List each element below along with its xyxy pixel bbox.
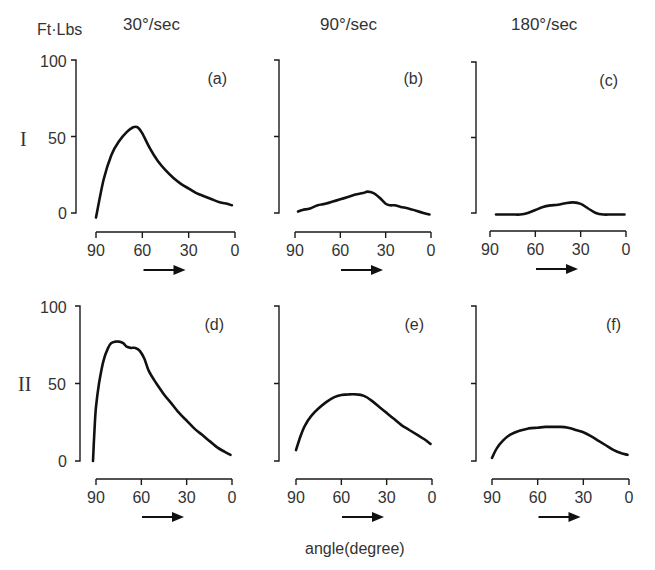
- y-tick-100-row1: 100: [40, 53, 67, 70]
- x-tick-label: 60: [132, 489, 150, 506]
- torque-curve-e: [296, 394, 431, 450]
- y-axis-e: [274, 306, 279, 461]
- y-axis-b: [274, 60, 279, 213]
- x-tick-label: 90: [87, 242, 105, 259]
- arrowhead-icon: [569, 512, 581, 522]
- arrowhead-icon: [174, 265, 186, 275]
- column-title-180: 180°/sec: [511, 15, 578, 34]
- x-axis-c: [490, 231, 626, 237]
- panel-label-e: (e): [404, 316, 424, 333]
- panel-d: 9060300(d): [75, 306, 237, 522]
- x-tick-label: 90: [87, 489, 105, 506]
- x-tick-label: 0: [622, 241, 631, 258]
- panel-c: 9060300(c): [471, 62, 631, 274]
- x-tick-label: 0: [427, 242, 436, 259]
- column-title-30: 30°/sec: [123, 15, 180, 34]
- x-tick-label: 90: [483, 489, 501, 506]
- panel-label-f: (f): [606, 316, 621, 333]
- x-axis-b: [295, 232, 431, 238]
- row-label-I: I: [20, 128, 27, 150]
- x-tick-label: 60: [133, 242, 151, 259]
- row-label-II: II: [18, 373, 31, 395]
- x-tick-label: 60: [332, 489, 350, 506]
- panel-b: 9060300(b): [274, 60, 436, 275]
- y-axis-d: [75, 306, 80, 461]
- panel-e: 9060300(e): [274, 306, 437, 522]
- y-tick-100-row2: 100: [40, 299, 67, 316]
- y-tick-0-row2: 0: [58, 453, 67, 470]
- torque-curve-a: [96, 127, 232, 218]
- x-tick-label: 60: [526, 241, 544, 258]
- x-axis-label: angle(degree): [305, 540, 405, 557]
- x-tick-label: 30: [377, 242, 395, 259]
- y-tick-0-row1: 0: [58, 205, 67, 222]
- x-tick-label: 60: [529, 489, 547, 506]
- x-tick-label: 30: [378, 489, 396, 506]
- panel-label-d: (d): [204, 316, 224, 333]
- x-tick-label: 90: [286, 242, 304, 259]
- panels-group: 9060300(a)9060300(b)9060300(c)9060300(d)…: [71, 60, 634, 522]
- x-tick-label: 30: [180, 242, 198, 259]
- x-tick-label: 90: [481, 241, 499, 258]
- y-axis-c: [471, 62, 476, 213]
- x-tick-label: 0: [428, 489, 437, 506]
- torque-curve-b: [298, 192, 430, 215]
- arrowhead-icon: [371, 265, 383, 275]
- x-tick-label: 30: [574, 489, 592, 506]
- x-axis-a: [96, 232, 235, 238]
- arrowhead-icon: [566, 264, 578, 274]
- figure-canvas: Ft·Lbs 30°/sec 90°/sec 180°/sec I II 100…: [0, 0, 655, 570]
- x-tick-label: 0: [228, 489, 237, 506]
- x-tick-label: 0: [625, 489, 634, 506]
- panel-label-a: (a): [207, 70, 227, 87]
- x-axis-f: [492, 479, 629, 485]
- x-tick-label: 30: [572, 241, 590, 258]
- x-tick-label: 30: [178, 489, 196, 506]
- y-tick-50-row2: 50: [48, 376, 66, 393]
- column-title-90: 90°/sec: [320, 15, 377, 34]
- panel-label-b: (b): [403, 70, 423, 87]
- x-tick-label: 90: [287, 489, 305, 506]
- arrowhead-icon: [172, 512, 184, 522]
- x-tick-label: 0: [231, 242, 240, 259]
- panel-a: 9060300(a): [71, 60, 240, 275]
- torque-curve-c: [496, 202, 625, 214]
- panel-label-c: (c): [599, 72, 618, 89]
- x-axis-e: [296, 479, 432, 485]
- arrowhead-icon: [372, 512, 384, 522]
- x-tick-label: 60: [331, 242, 349, 259]
- panel-f: 9060300(f): [471, 306, 634, 522]
- torque-curve-d: [93, 341, 231, 461]
- torque-curve-f: [492, 427, 628, 458]
- y-axis-a: [71, 60, 76, 213]
- y-unit-label: Ft·Lbs: [37, 21, 82, 38]
- y-axis-f: [471, 306, 476, 461]
- y-tick-50-row1: 50: [48, 130, 66, 147]
- x-axis-d: [96, 479, 232, 485]
